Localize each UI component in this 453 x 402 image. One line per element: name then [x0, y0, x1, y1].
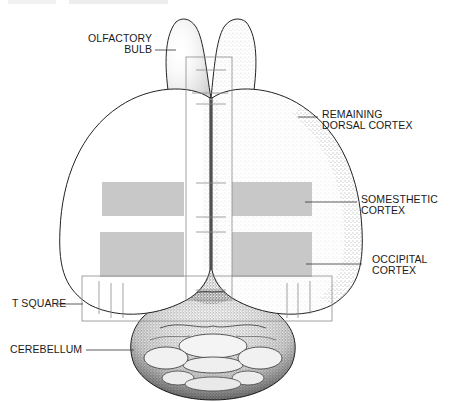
label-line: T SQUARE	[12, 298, 66, 309]
label-line: BULB	[88, 44, 152, 55]
label-remaining-dorsal-cortex: REMAINING DORSAL CORTEX	[322, 109, 413, 131]
olfactory-bulb-shape	[166, 19, 256, 98]
label-olfactory-bulb: OLFACTORY BULB	[88, 33, 152, 55]
label-line: CORTEX	[361, 205, 438, 216]
label-t-square: T SQUARE	[12, 298, 66, 309]
label-line: CORTEX	[372, 265, 428, 276]
label-occipital-cortex: OCCIPITAL CORTEX	[372, 254, 428, 276]
label-cerebellum: CEREBELLUM	[10, 344, 82, 355]
label-line: CEREBELLUM	[10, 344, 82, 355]
label-somesthetic-cortex: SOMESTHETIC CORTEX	[361, 194, 438, 216]
label-line: DORSAL CORTEX	[322, 120, 413, 131]
